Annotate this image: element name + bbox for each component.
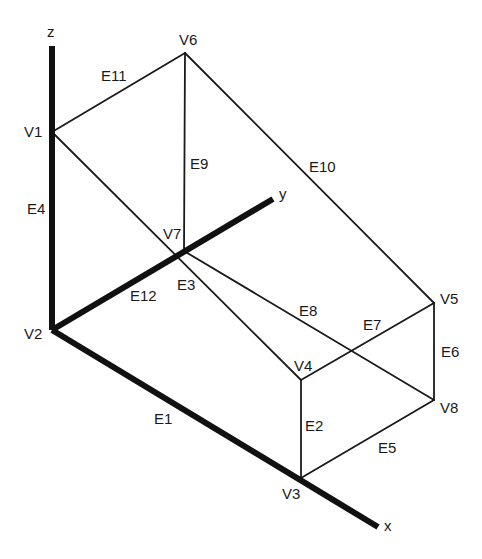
edge-e10 bbox=[185, 53, 434, 303]
y-axis-line bbox=[52, 199, 273, 330]
vertex-label-v7: V7 bbox=[163, 225, 181, 242]
edge-label-e7: E7 bbox=[363, 316, 381, 333]
edge-label-e12: E12 bbox=[130, 287, 157, 304]
edge-label-e3: E3 bbox=[177, 276, 195, 293]
edge-e9 bbox=[184, 53, 185, 251]
edge-e11 bbox=[52, 53, 185, 132]
x-axis-label: x bbox=[384, 517, 392, 534]
edge-label-e2: E2 bbox=[305, 417, 323, 434]
labels-layer: zyxV1V2V3V4V5V6V7V8E1E2E3E4E5E6E7E8E9E10… bbox=[24, 23, 459, 534]
vertex-label-v6: V6 bbox=[179, 31, 197, 48]
edge-e7 bbox=[301, 303, 434, 380]
edge-label-e10: E10 bbox=[309, 158, 336, 175]
vertex-label-v1: V1 bbox=[24, 123, 42, 140]
edge-label-e11: E11 bbox=[101, 67, 127, 84]
y-axis-label: y bbox=[279, 185, 287, 202]
z-axis-label: z bbox=[47, 23, 55, 40]
edge-label-e4: E4 bbox=[27, 200, 45, 217]
axes-layer bbox=[52, 46, 378, 527]
edge-label-e8: E8 bbox=[299, 302, 317, 319]
vertex-label-v3: V3 bbox=[282, 485, 300, 502]
vertex-label-v8: V8 bbox=[440, 399, 458, 416]
edge-label-e5: E5 bbox=[378, 439, 396, 456]
edge-label-e9: E9 bbox=[190, 155, 208, 172]
edge-label-e6: E6 bbox=[441, 343, 459, 360]
edge-label-e1: E1 bbox=[154, 410, 172, 427]
x-axis-line bbox=[52, 330, 378, 527]
vertex-label-v2: V2 bbox=[24, 325, 42, 342]
box-wireframe-diagram: zyxV1V2V3V4V5V6V7V8E1E2E3E4E5E6E7E8E9E10… bbox=[0, 0, 482, 559]
vertex-label-v4: V4 bbox=[294, 357, 312, 374]
edge-e5 bbox=[301, 400, 434, 478]
vertex-label-v5: V5 bbox=[440, 290, 458, 307]
edges-layer bbox=[52, 53, 434, 478]
